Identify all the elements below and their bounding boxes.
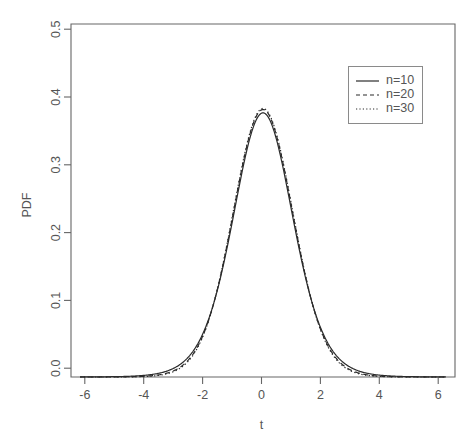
chart-figure: 0.0 0.1 0.2 0.3 0.4 0.5 PDF -6 -4 -2 0 2… [0, 0, 476, 448]
y-tick-label: 0.5 [49, 20, 63, 37]
x-tick-label: -2 [197, 388, 208, 402]
x-tick-label: -4 [138, 388, 149, 402]
t-distribution-pdf-chart: 0.0 0.1 0.2 0.3 0.4 0.5 PDF -6 -4 -2 0 2… [0, 0, 476, 448]
y-tick-label: 0.2 [49, 224, 63, 241]
x-tick-label: 6 [435, 388, 442, 402]
legend: n=10 n=20 n=30 [349, 67, 423, 124]
x-tick-label: -6 [79, 388, 90, 402]
x-tick-label: 2 [317, 388, 324, 402]
x-tick-label: 0 [258, 388, 265, 402]
legend-label-n10: n=10 [386, 73, 414, 87]
y-tick-label: 0.4 [49, 88, 63, 105]
legend-label-n30: n=30 [386, 101, 414, 115]
x-axis-title: t [260, 418, 264, 432]
y-tick-label: 0.1 [49, 292, 63, 309]
y-axis-title: PDF [20, 192, 34, 217]
y-tick-label: 0.3 [49, 156, 63, 173]
y-tick-label: 0.0 [49, 359, 63, 376]
x-tick-label: 4 [376, 388, 383, 402]
legend-label-n20: n=20 [386, 87, 414, 101]
